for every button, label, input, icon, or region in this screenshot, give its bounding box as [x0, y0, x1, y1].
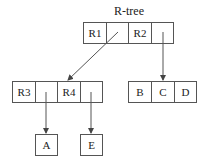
- arrows: [0, 0, 209, 165]
- arrow-r1-to-left-node: [68, 32, 118, 80]
